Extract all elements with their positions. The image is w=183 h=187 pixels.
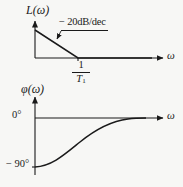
phase-omega-label: ω — [167, 110, 175, 121]
slope-annotation-leader — [57, 31, 61, 39]
phase-zero-degree-label: 0° — [12, 110, 21, 121]
break-frequency-numerator: 1 — [70, 60, 92, 71]
phase-angle-curve — [35, 118, 146, 167]
break-frequency-label: 1 T1 — [70, 60, 92, 85]
magnitude-omega-label: ω — [167, 50, 175, 61]
bode-diagram-figure: L(ω) − 20dB/dec ω 1 T1 φ(ω) ω 0° − 90° — [0, 0, 183, 187]
break-frequency-subscript: 1 — [82, 77, 86, 85]
magnitude-axis-label: L(ω) — [26, 4, 49, 16]
slope-annotation-label: − 20dB/dec — [59, 17, 106, 28]
magnitude-asymptote-curve — [35, 30, 152, 58]
slope-annotation-underline — [61, 30, 108, 31]
break-frequency-denominator: T1 — [70, 74, 92, 85]
phase-minus-ninety-degree-label: − 90° — [6, 159, 29, 170]
phase-axis-label: φ(ω) — [21, 83, 44, 95]
